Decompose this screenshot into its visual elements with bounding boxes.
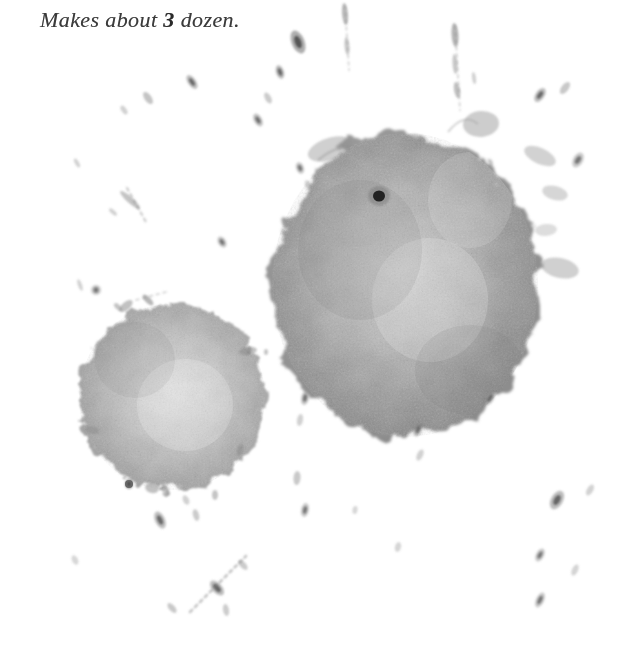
splatter-droplet [532,86,549,104]
splatter-droplet [108,207,118,217]
splatter-streak [455,26,460,110]
splatter-droplet [118,189,141,211]
splatter-droplet [263,91,274,104]
splatter-droplet [287,28,308,55]
splatter-droplets [70,3,595,617]
splatter-droplet-core [536,595,543,605]
stained-recipe-page: Makes about 3 dozen. [0,0,622,667]
splatter-droplet [547,488,567,511]
splatter-droplet-core [188,77,196,87]
splatter-droplet [76,279,84,292]
splatter-droplet [237,559,249,572]
splatter-droplet [216,235,229,249]
dark-core-spot [373,191,385,202]
splatter-droplet [152,510,169,531]
splatter-droplet-core [277,68,283,77]
splatter-droplet-core [156,514,165,525]
splatter-droplet-core [297,164,303,172]
splatter-streak [136,292,166,300]
splatter-droplet [294,161,306,175]
splatter-droplet-core [293,35,304,50]
yield-prefix: Makes about [40,7,163,32]
splatter-droplet [119,104,129,115]
splatter-droplet [222,604,230,617]
splatter-droplet-core [127,481,131,487]
splatter-droplet [192,508,201,521]
splatter-droplet-core [254,116,261,125]
splatter-droplet [303,179,312,190]
splatter-droplet-core [302,394,307,402]
splatter-droplet [452,54,458,74]
small-stain-body [79,304,265,490]
splatter-droplet [300,390,310,405]
splatter-droplet [70,554,80,566]
splatter-droplet [207,578,226,598]
splatter-droplet [471,72,477,84]
splatter-droplet [296,414,304,427]
splatter-droplet [533,547,547,563]
splatter-droplet [453,82,462,99]
splatter-droplet [212,490,218,500]
splatter-streak [190,556,246,612]
stain-illustration [0,0,622,667]
small-stain-group [60,290,290,510]
splatter-droplet [166,602,178,615]
splatter-droplet [352,506,358,515]
splatter-droplet [558,80,572,95]
splatter-droplet-core [486,393,494,403]
yield-quantity: 3 [163,7,174,32]
splatter-droplet [274,64,286,80]
splatter-droplet-core [212,583,222,594]
splatter-droplet-core [302,506,308,514]
splatter-droplet [451,23,460,47]
splatter-droplet [394,541,402,552]
yield-suffix: dozen. [175,7,240,32]
splatter-droplet [344,37,351,55]
splatter-droplet-core [574,155,583,165]
recipe-yield-text: Makes about 3 dozen. [40,7,240,33]
splatter-streaks [127,6,460,612]
splatter-droplet [141,293,155,307]
splatter-droplet [264,349,268,355]
splatter-droplet [570,151,587,170]
large-stain-body [272,133,538,437]
splatter-droplet [293,471,301,486]
splatter-droplet [533,591,547,609]
splatter-droplet [483,389,498,407]
splatter-droplet [184,73,200,91]
splatter-streak [127,188,146,222]
splatter-droplet [570,563,581,576]
splatter-droplet-core [552,494,563,507]
splatter-droplet [415,448,426,461]
splatter-droplet [141,90,155,105]
splatter-droplet [341,3,349,25]
splatter-droplet [125,479,133,489]
splatter-droplet [113,302,124,313]
splatter-droplet-core [415,426,422,435]
splatter-droplet [91,285,101,295]
large-stain-tendrils [305,109,581,281]
splatter-droplet-core [536,551,543,560]
splatter-droplet [411,422,424,438]
splatter-droplet-core [536,90,545,100]
splatter-droplet [251,112,265,128]
large-stain-group [260,109,581,460]
splatter-droplet [73,158,81,169]
splatter-droplet-core [94,287,99,293]
splatter-streak [345,6,349,70]
splatter-droplet [584,483,595,496]
splatter-droplet [247,346,252,354]
splatter-droplet [300,502,311,517]
splatter-droplet [235,443,244,456]
splatter-droplet-core [219,238,226,246]
splatter-droplet [181,494,191,506]
